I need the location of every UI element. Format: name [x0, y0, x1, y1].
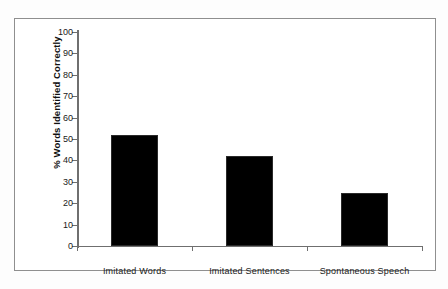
y-tick-label-20: 20 [33, 198, 73, 208]
bar-0 [111, 135, 158, 246]
y-tick-label-100: 100 [33, 27, 73, 37]
chart-frame: % Words Identified Correctly 01020304050… [14, 18, 436, 271]
y-tick-label-30: 30 [33, 177, 73, 187]
y-tick-label-70: 70 [33, 91, 73, 101]
y-axis-line [77, 30, 79, 248]
y-tick-label-10: 10 [33, 220, 73, 230]
y-tick-label-60: 60 [33, 113, 73, 123]
category-label-0: Imitated Words [103, 266, 166, 276]
x-tick-1 [192, 246, 193, 251]
y-tick-label-0: 0 [33, 241, 73, 251]
plot-area: 0102030405060708090100 Imitated WordsImi… [77, 32, 422, 246]
figure-page: % Words Identified Correctly 01020304050… [0, 0, 448, 289]
x-tick-3 [422, 246, 423, 251]
y-tick-label-90: 90 [33, 48, 73, 58]
y-tick-label-40: 40 [33, 155, 73, 165]
x-tick-2 [307, 246, 308, 251]
bar-1 [226, 156, 273, 246]
category-label-2: Spontaneous Speech [320, 266, 410, 276]
y-tick-label-80: 80 [33, 70, 73, 80]
y-tick-label-50: 50 [33, 134, 73, 144]
x-tick-0 [77, 246, 78, 251]
bar-2 [341, 193, 388, 247]
category-label-1: Imitated Sentences [209, 266, 290, 276]
